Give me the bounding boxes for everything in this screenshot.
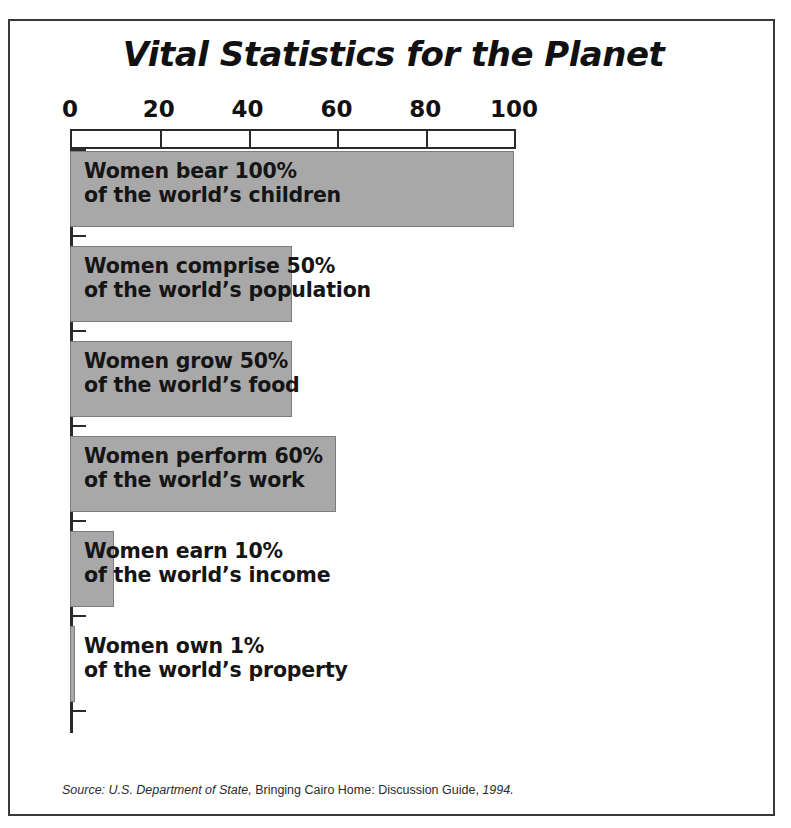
bar-label: Women grow 50%of the world’s food bbox=[84, 349, 300, 397]
source-note: Source: U.S. Department of State, Bringi… bbox=[62, 783, 514, 797]
ruler-divider-40 bbox=[249, 131, 251, 147]
x-tick-label-40: 40 bbox=[213, 96, 283, 122]
bar-label-line-2: of the world’s work bbox=[84, 468, 323, 492]
bar-label-line-1: Women perform 60% bbox=[84, 444, 323, 468]
ruler-divider-20 bbox=[160, 131, 162, 147]
x-tick-label-80: 80 bbox=[390, 96, 460, 122]
y-axis-tick-1 bbox=[73, 235, 86, 237]
x-tick-label-0: 0 bbox=[35, 96, 105, 122]
bar-label: Women comprise 50%of the world’s populat… bbox=[84, 254, 371, 302]
bar-label-line-1: Women bear 100% bbox=[84, 159, 341, 183]
ruler-divider-80 bbox=[426, 131, 428, 147]
bar-label: Women perform 60%of the world’s work bbox=[84, 444, 323, 492]
bar-label-line-2: of the world’s population bbox=[84, 278, 371, 302]
x-tick-label-60: 60 bbox=[301, 96, 371, 122]
source-prefix: Source: U.S. Department of State, bbox=[62, 783, 252, 797]
plot-area: 020406080100 Women bear 100%of the world… bbox=[62, 96, 762, 756]
ruler-divider-60 bbox=[337, 131, 339, 147]
chart-frame: Vital Statistics for the Planet 02040608… bbox=[8, 19, 775, 816]
source-year: 1994. bbox=[482, 783, 513, 797]
y-axis-tick-3 bbox=[73, 425, 86, 427]
page-title: Vital Statistics for the Planet bbox=[10, 34, 777, 74]
bar-label-line-1: Women earn 10% bbox=[84, 539, 330, 563]
bar-label: Women earn 10%of the world’s income bbox=[84, 539, 330, 587]
x-tick-label-100: 100 bbox=[479, 96, 549, 122]
y-axis-tick-6 bbox=[73, 710, 86, 712]
bar-label-line-1: Women grow 50% bbox=[84, 349, 300, 373]
bar-label: Women bear 100%of the world’s children bbox=[84, 159, 341, 207]
y-axis-tick-5 bbox=[73, 615, 86, 617]
bar-label-line-2: of the world’s children bbox=[84, 183, 341, 207]
source-middle: Bringing Cairo Home: Discussion Guide, bbox=[252, 783, 483, 797]
bar bbox=[70, 626, 75, 702]
bar-label-line-2: of the world’s food bbox=[84, 373, 300, 397]
y-axis-tick-4 bbox=[73, 520, 86, 522]
x-tick-label-20: 20 bbox=[124, 96, 194, 122]
x-axis-ruler bbox=[70, 129, 516, 149]
bar-label: Women own 1%of the world’s property bbox=[84, 634, 348, 682]
bar-label-line-2: of the world’s property bbox=[84, 658, 348, 682]
bar-label-line-2: of the world’s income bbox=[84, 563, 330, 587]
y-axis-tick-2 bbox=[73, 330, 86, 332]
bar-label-line-1: Women comprise 50% bbox=[84, 254, 371, 278]
bar-label-line-1: Women own 1% bbox=[84, 634, 348, 658]
